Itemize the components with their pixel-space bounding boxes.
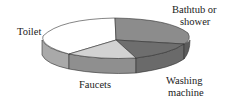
label-faucets: Faucets	[79, 79, 111, 90]
label-toilet: Toilet	[17, 26, 41, 37]
label-bathtub-line1: Bathtub or	[172, 4, 217, 15]
label-bathtub-line2: shower	[180, 16, 210, 27]
label-washing-line2: machine	[168, 87, 204, 98]
slice-bathtub-or-shower	[115, 18, 189, 44]
label-washing-line1: Washing	[166, 75, 202, 86]
